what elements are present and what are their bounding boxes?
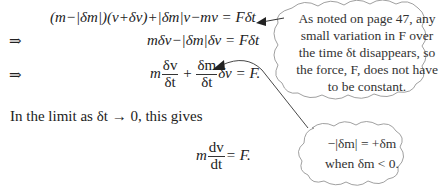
equation-4: mdvdt= F.: [196, 140, 251, 173]
equation-3-m: m: [150, 65, 161, 81]
plus-sign: +: [183, 65, 191, 81]
equation-2-lhs: mδv−|δm|δv: [147, 32, 221, 48]
fraction-dv-dt-derivative: dvdt: [208, 140, 225, 173]
fraction-numerator: dv: [208, 140, 225, 157]
fraction-dv-dt: δvδt: [162, 58, 179, 91]
equation-4-m: m: [196, 147, 207, 163]
callout-line: As noted on page 47, any: [292, 10, 440, 27]
callout-line: the time δt disappears, so: [292, 44, 440, 61]
equation-3-tail: δv = F.: [218, 65, 260, 81]
callout-line: when δm < 0.: [312, 154, 412, 174]
callout-line: the force, F, does not have: [292, 61, 440, 78]
fraction-dm-dt: δmδt: [196, 58, 217, 91]
equation-1-rhs: = Fδt: [222, 9, 256, 25]
fraction-numerator: δv: [162, 58, 179, 75]
limit-sentence: In the limit as δt → 0, this gives: [10, 108, 202, 125]
equation-2: mδv−|δm|δv = Fδt: [147, 32, 259, 49]
fraction-numerator: δm: [196, 58, 217, 75]
equation-3: mδvδt + δmδtδv = F.: [150, 58, 260, 91]
equation-2-rhs: = Fδt: [225, 32, 259, 48]
callout-line: small variation in F over: [292, 27, 440, 44]
fraction-denominator: δt: [162, 75, 179, 91]
top-callout-text: As noted on page 47, any small variation…: [292, 10, 440, 95]
equation-4-tail: = F.: [226, 147, 251, 163]
fraction-denominator: δt: [196, 75, 217, 91]
bottom-callout-text: −|δm| = +δm when δm < 0.: [312, 134, 412, 174]
callout-line: −|δm| = +δm: [312, 134, 412, 154]
equation-1-lhs: (m−|δm|)(v+δv)+|δm|v−mv: [50, 9, 218, 25]
equation-1: (m−|δm|)(v+δv)+|δm|v−mv = Fδt: [50, 9, 256, 26]
fraction-denominator: dt: [208, 157, 225, 173]
callout-line: to be constant.: [292, 78, 440, 95]
implies-symbol-1: ⇒: [9, 32, 22, 50]
implies-symbol-2: ⇒: [9, 66, 22, 84]
